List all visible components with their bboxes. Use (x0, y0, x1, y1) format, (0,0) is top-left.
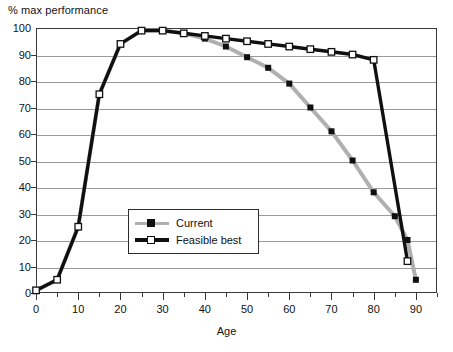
gridline-y-10 (37, 268, 436, 269)
x-tick-mark-95 (437, 293, 438, 297)
legend-swatch-current (135, 217, 169, 229)
legend-swatch-feasible-best (135, 234, 169, 246)
gridline-y-50 (37, 162, 436, 163)
gridline-y-40 (37, 188, 436, 189)
legend-label-current: Current (176, 217, 213, 229)
x-tick-label-70: 70 (325, 303, 337, 315)
y-tick-label-70: 70 (1, 102, 31, 114)
x-tick-label-30: 30 (157, 303, 169, 315)
x-tick-mark-75 (353, 293, 354, 297)
x-tick-mark-10 (78, 293, 79, 300)
x-tick-mark-65 (310, 293, 311, 297)
gridline-y-80 (37, 82, 436, 83)
x-tick-label-50: 50 (241, 303, 253, 315)
y-tick-label-50: 50 (1, 155, 31, 167)
y-tick-label-20: 20 (1, 234, 31, 246)
y-tick-label-100: 100 (1, 22, 31, 34)
y-tick-label-60: 60 (1, 128, 31, 140)
x-tick-label-0: 0 (33, 303, 39, 315)
gridline-y-90 (37, 56, 436, 57)
y-tick-label-10: 10 (1, 261, 31, 273)
performance-vs-age-chart: % max performance 0102030405060708090100… (0, 0, 453, 352)
x-tick-mark-0 (36, 293, 37, 300)
legend-item-current: Current (135, 214, 252, 231)
x-tick-mark-20 (120, 293, 121, 300)
y-tick-label-0: 0 (1, 287, 31, 299)
x-tick-mark-70 (331, 293, 332, 300)
y-tick-label-30: 30 (1, 208, 31, 220)
y-tick-mark-30 (31, 214, 36, 215)
legend-label-feasible-best: Feasible best (176, 234, 241, 246)
chart-legend: Current Feasible best (128, 209, 259, 254)
y-tick-mark-80 (31, 81, 36, 82)
gridline-y-70 (37, 109, 436, 110)
hollow-square-icon (147, 236, 155, 244)
y-tick-mark-90 (31, 55, 36, 56)
x-tick-mark-30 (163, 293, 164, 300)
y-tick-mark-10 (31, 267, 36, 268)
y-tick-mark-40 (31, 187, 36, 188)
y-tick-label-90: 90 (1, 49, 31, 61)
x-axis-title: Age (0, 325, 453, 337)
y-tick-mark-20 (31, 240, 36, 241)
x-tick-label-40: 40 (199, 303, 211, 315)
x-tick-mark-55 (268, 293, 269, 297)
x-tick-mark-80 (374, 293, 375, 300)
x-tick-label-90: 90 (410, 303, 422, 315)
x-tick-mark-35 (184, 293, 185, 297)
y-tick-mark-50 (31, 161, 36, 162)
gridline-y-60 (37, 135, 436, 136)
y-tick-label-80: 80 (1, 75, 31, 87)
y-tick-mark-60 (31, 134, 36, 135)
x-tick-label-10: 10 (72, 303, 84, 315)
y-axis-title: % max performance (8, 4, 108, 16)
y-tick-mark-70 (31, 108, 36, 109)
x-tick-mark-25 (142, 293, 143, 297)
x-tick-mark-60 (289, 293, 290, 300)
x-tick-mark-15 (99, 293, 100, 297)
x-tick-mark-50 (247, 293, 248, 300)
x-tick-mark-40 (205, 293, 206, 300)
x-tick-mark-90 (416, 293, 417, 300)
x-tick-mark-45 (226, 293, 227, 297)
x-tick-label-80: 80 (368, 303, 380, 315)
filled-square-icon (147, 219, 155, 227)
x-tick-label-60: 60 (283, 303, 295, 315)
y-tick-label-40: 40 (1, 181, 31, 193)
x-tick-mark-5 (57, 293, 58, 297)
x-tick-mark-85 (395, 293, 396, 297)
x-tick-label-20: 20 (114, 303, 126, 315)
legend-item-feasible-best: Feasible best (135, 231, 252, 248)
